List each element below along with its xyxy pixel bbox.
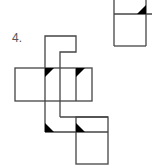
corner-triangle-icon xyxy=(76,68,85,77)
diagram-canvas xyxy=(0,0,152,168)
corner-triangle-icon xyxy=(76,123,85,132)
corner-triangle-icon xyxy=(45,123,54,132)
corner-triangle-icon xyxy=(137,5,146,14)
corner-triangle-icon xyxy=(45,68,54,77)
partial-net-top-right xyxy=(114,0,152,46)
cube-net xyxy=(15,36,108,164)
